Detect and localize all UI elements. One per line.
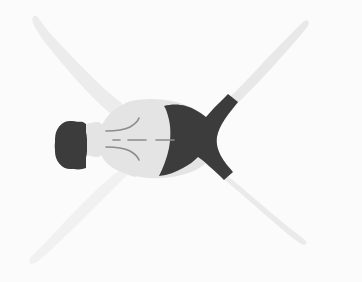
figure-canvas	[0, 0, 362, 282]
prone-figure-illustration	[0, 0, 362, 282]
head-cap	[55, 121, 87, 169]
